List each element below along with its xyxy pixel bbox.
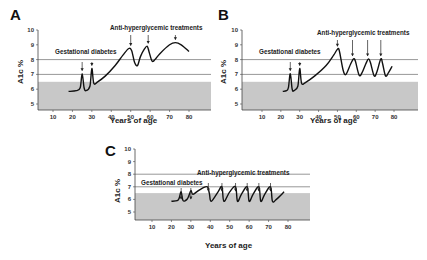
panel-label-b: B: [218, 6, 229, 23]
panel-a: A 56789101020304050607080 Years of age A…: [10, 6, 211, 125]
y-tick-label: 6: [128, 196, 132, 202]
y-tick-label: 9: [235, 42, 239, 48]
x-tick-label: 40: [207, 224, 214, 230]
x-tick-label: 10: [50, 114, 57, 120]
figure: A 56789101020304050607080 Years of age A…: [0, 0, 427, 260]
y-tick-label: 7: [31, 71, 35, 77]
x-tick-label: 70: [265, 224, 272, 230]
x-axis-title-c: Years of age: [205, 241, 253, 250]
x-tick-label: 30: [188, 224, 195, 230]
x-tick-label: 80: [186, 114, 193, 120]
y-tick-label: 8: [235, 57, 239, 63]
plot-area-a: 56789101020304050607080: [27, 27, 211, 120]
x-tick-label: 20: [278, 114, 285, 120]
y-tick-label: 5: [235, 101, 239, 107]
x-tick-label: 30: [296, 114, 303, 120]
annotation-gestational-b: Gestational diabetes: [259, 48, 321, 55]
y-tick-label: 10: [27, 27, 34, 33]
x-tick-label: 10: [259, 114, 266, 120]
annotation-treatment-b: Anti-hyperglycemic treatments: [317, 29, 410, 37]
annotation-gestational-a: Gestational diabetes: [55, 48, 117, 55]
x-tick-label: 50: [226, 224, 233, 230]
x-tick-label: 10: [149, 224, 156, 230]
y-tick-label: 7: [235, 71, 239, 77]
y-tick-label: 8: [128, 171, 132, 177]
y-axis-title-c: A1c %: [113, 179, 122, 203]
normal-range-band: [242, 82, 418, 110]
panel-c: C 56789101020304050607080 Years of age A…: [105, 142, 310, 250]
y-tick-label: 10: [124, 146, 131, 152]
x-tick-label: 70: [372, 114, 379, 120]
y-tick-label: 7: [128, 184, 132, 190]
y-tick-label: 10: [231, 27, 238, 33]
y-tick-label: 9: [31, 42, 35, 48]
x-axis-title-b: Years of age: [310, 116, 358, 125]
annotation-gestational-c: Gestational diabetes: [141, 179, 203, 186]
panel-b: B 56789101020304050607080 Years of age A…: [218, 6, 418, 125]
y-axis-title-a: A1c %: [16, 60, 25, 84]
x-tick-label: 80: [285, 224, 292, 230]
panel-label-c: C: [105, 142, 116, 159]
x-tick-label: 30: [89, 114, 96, 120]
y-tick-label: 6: [235, 86, 239, 92]
x-tick-label: 20: [69, 114, 76, 120]
x-tick-label: 70: [166, 114, 173, 120]
y-axis-title-b: A1c %: [219, 60, 228, 84]
x-tick-label: 80: [391, 114, 398, 120]
y-tick-label: 8: [31, 57, 35, 63]
normal-range-band: [38, 82, 211, 110]
x-axis-title-a: Years of age: [110, 116, 158, 125]
x-tick-label: 60: [246, 224, 253, 230]
y-tick-label: 6: [31, 86, 35, 92]
x-tick-label: 20: [168, 224, 175, 230]
annotation-treatment-c: Anti-hyperglycemic treatments: [197, 169, 290, 177]
plot-area-c: 56789101020304050607080: [124, 146, 310, 230]
annotation-treatment-a: Anti-hyperglycemic treatments: [110, 24, 203, 32]
y-tick-label: 9: [128, 159, 132, 165]
y-tick-label: 5: [128, 209, 132, 215]
plot-area-b: 56789101020304050607080: [231, 27, 418, 120]
panel-label-a: A: [10, 6, 21, 23]
y-tick-label: 5: [31, 101, 35, 107]
